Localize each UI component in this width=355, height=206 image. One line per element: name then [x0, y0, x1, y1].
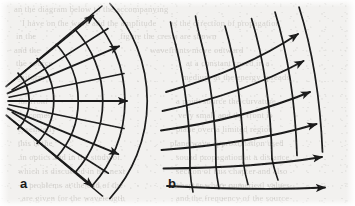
panel-b-graphic	[161, 7, 325, 192]
panel-label-a: a	[20, 176, 27, 191]
panel-label-b: b	[168, 176, 176, 191]
wavefront-diagram-svg	[0, 0, 355, 206]
panel-b-wavefront-arcs	[176, 7, 323, 170]
panel-b-rays	[161, 34, 325, 189]
panel-a-graphic	[6, 4, 147, 199]
figure-container: an the diagram below to the accompanying…	[0, 0, 355, 206]
